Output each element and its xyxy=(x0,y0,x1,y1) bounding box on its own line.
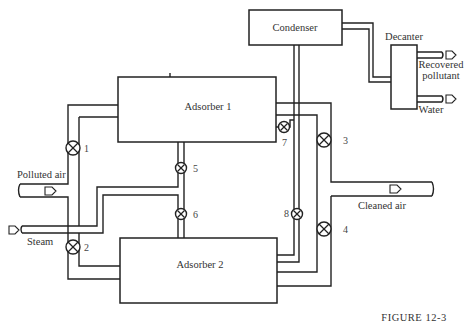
valve-5-icon xyxy=(176,163,187,174)
adsorption-process-diagram: Condenser Decanter Adsorber 1 Adsorber 2 xyxy=(0,0,466,325)
recovered-pollutant-label-line1: Recovered xyxy=(419,59,465,70)
water-pipe xyxy=(417,96,442,102)
recovered-pollutant-arrow-icon xyxy=(446,51,456,59)
valve-2-icon xyxy=(66,240,80,254)
valve-1-icon xyxy=(66,141,80,155)
cleaned-air-label: Cleaned air xyxy=(358,200,407,211)
adsorber-1-unit: Adsorber 1 xyxy=(118,77,276,142)
valve-8-icon xyxy=(292,209,303,220)
valve-4-icon xyxy=(317,222,331,236)
steam-label: Steam xyxy=(27,236,53,247)
adsorber-1-label: Adsorber 1 xyxy=(185,101,232,112)
valve-3-icon xyxy=(317,133,331,147)
recovered-pollutant-label-line2: pollutant xyxy=(422,70,459,81)
condenser-unit: Condenser xyxy=(249,10,342,45)
decanter-label: Decanter xyxy=(385,31,423,42)
adsorber-2-label: Adsorber 2 xyxy=(177,259,224,270)
valve-7-label: 7 xyxy=(282,137,287,148)
water-arrow-icon xyxy=(446,95,456,103)
figure-caption: FIGURE 12-3 xyxy=(381,312,446,323)
valve-1-label: 1 xyxy=(84,143,89,154)
valve-2-label: 2 xyxy=(84,242,89,253)
valve-4-label: 4 xyxy=(343,224,348,235)
condenser-to-decanter-pipe xyxy=(342,23,391,77)
cleaned-air-arrow-icon xyxy=(390,185,401,193)
water-label: Water xyxy=(419,104,444,115)
valve-7-icon xyxy=(279,122,290,133)
recovered-pollutant-pipe xyxy=(417,52,442,58)
steam-arrow-icon xyxy=(9,226,19,234)
valve-6-icon xyxy=(176,209,187,220)
valve-5-label: 5 xyxy=(193,163,198,174)
polluted-air-arrow-icon xyxy=(45,187,56,195)
condenser-downpipe xyxy=(277,45,294,255)
valve-6-label: 6 xyxy=(193,209,198,220)
valve-3-label: 3 xyxy=(343,135,348,146)
decanter-unit: Decanter xyxy=(385,31,423,109)
valve-8-label: 8 xyxy=(284,208,289,219)
adsorber-2-unit: Adsorber 2 xyxy=(120,238,277,303)
condenser-label: Condenser xyxy=(273,22,318,33)
polluted-air-label: Polluted air xyxy=(17,169,66,180)
